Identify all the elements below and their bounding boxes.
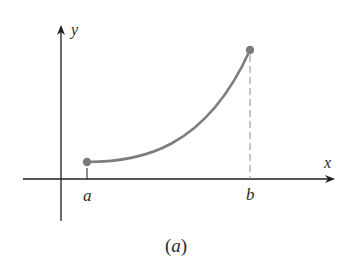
figure-caption: (a) <box>165 235 187 257</box>
x-axis-label: x <box>323 154 331 171</box>
curve <box>87 50 250 162</box>
y-axis-label: y <box>69 21 79 39</box>
endpoint-a <box>83 158 91 166</box>
endpoint-b <box>246 46 254 54</box>
figure-caption-var: a <box>171 235 181 256</box>
point-b-label: b <box>246 185 255 204</box>
figure-canvas: y x a b (a) <box>0 0 352 265</box>
point-a-label: a <box>83 186 92 205</box>
